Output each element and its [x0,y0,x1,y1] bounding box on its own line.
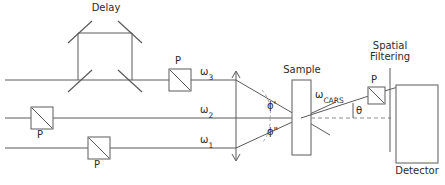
polarizer-omega1-label: P [94,159,100,171]
beam-label-omega2-sub: 2 [208,111,213,120]
delay-mirror-top-left-icon [68,21,92,43]
diagram-canvas [0,0,445,185]
cars-optical-setup-diagram: Delay P P P P ω3 ω2 ω1 ϕ' ϕ" Sample ωCAR… [0,0,445,185]
beam-label-omega-cars: ωCARS [315,89,344,105]
angle-label-phi-prime: ϕ' [267,100,276,112]
polarizer-omega2-label: P [37,129,43,141]
angle-label-theta: θ [356,105,362,117]
spatial-filtering-label-line2: Filtering [358,51,422,63]
beam-label-omega1-sub: 1 [208,141,213,150]
angle-label-phi-double-prime: ϕ" [267,126,278,138]
spatial-filtering-label-line1: Spatial [358,40,422,52]
sample-label: Sample [277,64,327,76]
delay-label: Delay [81,2,131,14]
beam-label-omega1: ω1 [200,134,213,150]
beam-label-omega-cars-sub: CARS [323,96,343,105]
beam-label-omega2: ω2 [200,104,213,120]
beam-label-omega3-sub: 3 [208,73,213,82]
delay-mirror-bottom-left-icon [68,70,92,92]
delay-mirror-bottom-right-icon [118,70,142,92]
polarizer-analyzer-label: P [371,74,377,86]
delay-mirror-top-right-icon [118,21,142,43]
beam-omega3-converging [236,80,301,118]
detector-label: Detector [392,165,442,177]
polarizer-omega3-label: P [175,55,181,67]
beam-label-omega3: ω3 [200,66,213,82]
detector-box [396,85,438,163]
